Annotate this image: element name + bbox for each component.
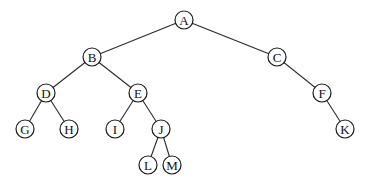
- tree-node-h: H: [60, 120, 78, 138]
- tree-edges: [25, 20, 345, 165]
- tree-node-b: B: [83, 48, 101, 66]
- tree-node-f: F: [313, 84, 331, 102]
- node-label: C: [273, 50, 282, 65]
- node-label: D: [41, 86, 50, 101]
- node-label: B: [88, 50, 97, 65]
- edge-a-c: [184, 20, 277, 57]
- node-label: I: [113, 122, 117, 137]
- node-label: H: [64, 122, 73, 137]
- node-label: G: [20, 122, 29, 137]
- node-label: K: [340, 122, 350, 137]
- node-label: L: [144, 158, 152, 173]
- node-label: F: [318, 86, 325, 101]
- tree-node-a: A: [175, 11, 193, 29]
- tree-node-d: D: [37, 84, 55, 102]
- tree-node-e: E: [129, 84, 147, 102]
- node-label: J: [158, 122, 163, 137]
- tree-nodes: ABCDEFGHIJKLM: [16, 11, 354, 174]
- node-label: M: [166, 158, 178, 173]
- tree-node-k: K: [336, 120, 354, 138]
- node-label: A: [179, 13, 189, 28]
- tree-node-m: M: [163, 156, 181, 174]
- tree-node-j: J: [152, 120, 170, 138]
- edge-a-b: [92, 20, 184, 57]
- tree-diagram: ABCDEFGHIJKLM: [0, 0, 371, 187]
- tree-node-g: G: [16, 120, 34, 138]
- tree-node-i: I: [106, 120, 124, 138]
- node-label: E: [134, 86, 142, 101]
- tree-node-l: L: [139, 156, 157, 174]
- tree-node-c: C: [268, 48, 286, 66]
